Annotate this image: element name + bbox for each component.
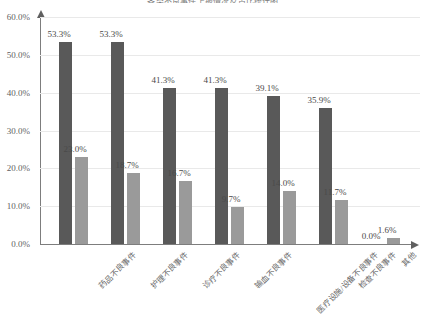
bar-value-label: 23.0% (58, 145, 92, 154)
y-axis-tick-label: 40.0% (0, 89, 30, 98)
bar[interactable] (75, 157, 88, 244)
bar-group: 0.0%1.6% (360, 17, 412, 244)
x-axis-category-label: 诊疗不良事件 (200, 249, 242, 291)
bar-value-label: 53.3% (42, 30, 76, 39)
bar[interactable] (179, 181, 192, 244)
y-axis-tick-label: 50.0% (0, 51, 30, 60)
x-axis-category-label: 护理不良事件 (148, 249, 190, 291)
bar[interactable] (215, 88, 228, 244)
bar[interactable] (163, 88, 176, 244)
bar-value-label: 1.6% (370, 226, 404, 235)
bar-group: 39.1%14.0% (256, 17, 308, 244)
bar[interactable] (127, 173, 140, 244)
y-axis-tick-label: 0.0% (0, 240, 30, 249)
bar-value-label: 35.9% (302, 96, 336, 105)
bar[interactable] (111, 42, 124, 244)
plot-area: 0.0%10.0%20.0%30.0%40.0%50.0%60.0%53.3%2… (40, 17, 420, 245)
bar-value-label: 53.3% (94, 30, 128, 39)
y-axis-tick-label: 60.0% (0, 13, 30, 22)
bar-value-label: 16.7% (162, 169, 196, 178)
x-axis-category-label: 其他 (399, 249, 418, 268)
bar[interactable] (231, 207, 244, 244)
x-axis-arrow-icon (411, 241, 419, 249)
bar[interactable] (319, 108, 332, 244)
bar-group: 41.3%16.7% (152, 17, 204, 244)
bar-value-label: 18.7% (110, 161, 144, 170)
y-axis-tick-label: 30.0% (0, 127, 30, 136)
chart-title: 各类不良事件上报情况及占比统计图 (0, 0, 426, 3)
bar-value-label: 14.0% (266, 179, 300, 188)
chart-container: 各类不良事件上报情况及占比统计图 0.0%10.0%20.0%30.0%40.0… (0, 0, 426, 333)
bar[interactable] (335, 200, 348, 244)
x-axis-line (40, 244, 412, 245)
x-axis-category-label: 药品不良事件 (96, 249, 138, 291)
bar-value-label: 39.1% (250, 84, 284, 93)
bar-value-label: 9.7% (214, 195, 248, 204)
bar[interactable] (387, 238, 400, 244)
bar-group: 53.3%23.0% (48, 17, 100, 244)
x-axis-category-label: 输血不良事件 (252, 249, 294, 291)
y-axis-tick-label: 10.0% (0, 202, 30, 211)
bar-value-label: 41.3% (198, 76, 232, 85)
bar-group: 41.3%9.7% (204, 17, 256, 244)
bar-group: 53.3%18.7% (100, 17, 152, 244)
bar-value-label: 41.3% (146, 76, 180, 85)
bar-group: 35.9%11.7% (308, 17, 360, 244)
bar-value-label: 11.7% (318, 188, 352, 197)
bar[interactable] (283, 191, 296, 244)
bar[interactable] (267, 96, 280, 244)
y-axis-tick-label: 20.0% (0, 164, 30, 173)
